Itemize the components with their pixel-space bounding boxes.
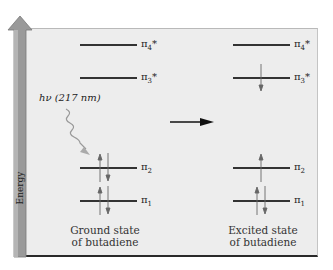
orbital-label-pi3-excited: π3* (294, 71, 310, 85)
excited-state-caption: Excited state of butadiene (213, 224, 313, 248)
energy-axis-label: Energy (14, 158, 26, 218)
photon-label: hν (217 nm) (39, 92, 101, 103)
ground-state-caption: Ground state of butadiene (55, 224, 155, 248)
orbital-label-pi2-excited: π2 (294, 161, 305, 175)
excited-state-levels (233, 45, 290, 201)
orbital-label-pi4-ground: π4* (141, 38, 157, 52)
photon-wavy-arrow (66, 109, 90, 155)
orbital-label-pi3-ground: π3* (141, 71, 157, 85)
orbital-label-pi1-ground: π1 (141, 194, 152, 208)
orbital-label-pi1-excited: π1 (294, 194, 305, 208)
orbital-label-pi4-excited: π4* (294, 38, 310, 52)
transition-arrow (170, 118, 214, 126)
orbital-label-pi2-ground: π2 (141, 161, 152, 175)
excited-state-electrons (255, 64, 267, 215)
ground-state-electrons (98, 153, 110, 215)
energy-axis-arrow (8, 16, 32, 257)
